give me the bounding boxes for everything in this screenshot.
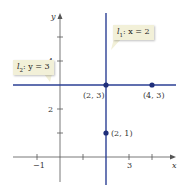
callout-l1: l1: x = 2 (113, 25, 154, 40)
graph-svg: −1 3 2 4 x y (2, 3) (4, 3) (2, 1) (0, 0, 190, 191)
callout-l2-text: : y = 3 (23, 62, 50, 71)
callout-l2: l2: y = 3 (13, 60, 54, 75)
x-tick-label-3: 3 (127, 161, 132, 170)
point-2-1 (103, 130, 108, 135)
x-tick-label-neg1: −1 (33, 161, 45, 170)
coordinate-diagram: −1 3 2 4 x y (2, 3) (4, 3) (2, 1) l1: x … (0, 0, 190, 191)
point-2-3 (103, 82, 108, 87)
point-4-3 (149, 82, 154, 87)
point-label-2-1: (2, 1) (111, 129, 133, 138)
callout-l1-text: : x = 2 (123, 27, 150, 36)
point-label-2-3: (2, 3) (83, 91, 105, 100)
callout-l1-pointer (111, 38, 122, 50)
y-axis-arrow-icon (58, 13, 63, 19)
callout-l2-pointer (44, 74, 52, 82)
y-tick-label-2: 2 (48, 105, 53, 114)
x-axis-arrow-icon (170, 155, 176, 160)
x-axis-label: x (172, 161, 177, 170)
y-axis-label: y (50, 12, 56, 21)
point-label-4-3: (4, 3) (143, 91, 165, 100)
